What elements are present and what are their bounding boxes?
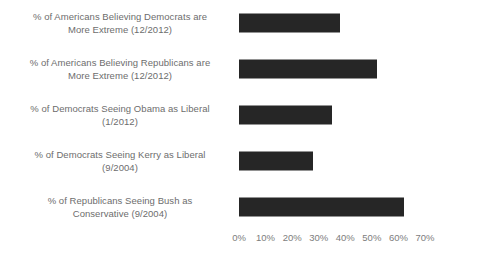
- category-label-line: % of Americans Believing Democrats are: [8, 10, 232, 23]
- chart-row: % of Americans Believing Republicans are…: [0, 46, 495, 92]
- x-axis-tick-label: 40%: [336, 232, 355, 243]
- category-label-line: (9/2004): [8, 161, 232, 174]
- x-axis-tick-label: 60%: [389, 232, 408, 243]
- category-label-line: More Extreme (12/2012): [8, 69, 232, 82]
- bar[interactable]: [239, 198, 404, 217]
- bar-chart: % of Americans Believing Democrats are M…: [0, 0, 495, 259]
- category-label-line: (1/2012): [8, 115, 232, 128]
- x-axis-tick-label: 20%: [283, 232, 302, 243]
- chart-row: % of Democrats Seeing Kerry as Liberal (…: [0, 138, 495, 184]
- plot-area: % of Americans Believing Democrats are M…: [0, 0, 495, 230]
- chart-row: % of Democrats Seeing Obama as Liberal (…: [0, 92, 495, 138]
- chart-row: % of Americans Believing Democrats are M…: [0, 0, 495, 46]
- category-label-line: % of Democrats Seeing Kerry as Liberal: [8, 148, 232, 161]
- x-axis-tick-label: 10%: [256, 232, 275, 243]
- x-axis: 0%10%20%30%40%50%60%70%: [0, 229, 495, 259]
- category-label-line: % of Democrats Seeing Obama as Liberal: [8, 102, 232, 115]
- category-label-line: Conservative (9/2004): [8, 207, 232, 220]
- category-label-line: % of Americans Believing Republicans are: [8, 56, 232, 69]
- category-label: % of Americans Believing Democrats are M…: [8, 10, 232, 36]
- bar-track: [239, 106, 332, 125]
- category-label: % of Democrats Seeing Obama as Liberal (…: [8, 102, 232, 128]
- bar-track: [239, 60, 377, 79]
- category-label: % of Americans Believing Republicans are…: [8, 56, 232, 82]
- category-label: % of Democrats Seeing Kerry as Liberal (…: [8, 148, 232, 174]
- chart-row: % of Republicans Seeing Bush as Conserva…: [0, 184, 495, 230]
- category-label-line: More Extreme (12/2012): [8, 23, 232, 36]
- bar-track: [239, 14, 340, 33]
- bar[interactable]: [239, 60, 377, 79]
- x-axis-tick-label: 0%: [232, 232, 246, 243]
- x-axis-tick-label: 30%: [309, 232, 328, 243]
- bar-track: [239, 198, 404, 217]
- bar[interactable]: [239, 14, 340, 33]
- bar[interactable]: [239, 106, 332, 125]
- x-axis-tick-label: 70%: [415, 232, 434, 243]
- x-axis-tick-label: 50%: [362, 232, 381, 243]
- bar[interactable]: [239, 152, 313, 171]
- bar-track: [239, 152, 313, 171]
- category-label: % of Republicans Seeing Bush as Conserva…: [8, 194, 232, 220]
- category-label-line: % of Republicans Seeing Bush as: [8, 194, 232, 207]
